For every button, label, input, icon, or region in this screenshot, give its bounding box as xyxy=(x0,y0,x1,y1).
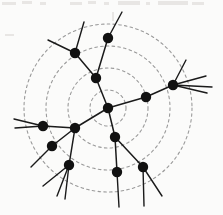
pendant-edge-n11-13 xyxy=(117,172,119,207)
pendant-edges-group xyxy=(14,12,212,207)
tree-node-bottom-right xyxy=(138,162,148,172)
tree-node-upper-branch xyxy=(91,73,101,83)
tree-edge-n10-n11 xyxy=(115,137,117,172)
pendant-edge-n12-15 xyxy=(143,167,162,196)
tree-nodes-group xyxy=(38,33,178,177)
tree-edge-n1-n3 xyxy=(96,38,108,78)
tree-node-upper-left xyxy=(70,48,80,58)
tree-node-top xyxy=(103,33,113,43)
tree-node-right-outer xyxy=(168,80,178,90)
tree-edge-n0-n4 xyxy=(108,97,146,108)
tree-edge-n0-n6 xyxy=(75,108,108,128)
tree-node-bottom-mid xyxy=(112,167,122,177)
figure-container xyxy=(0,0,223,215)
tree-node-root xyxy=(103,103,113,113)
tree-node-right-inner xyxy=(141,92,151,102)
tree-node-lower-mid xyxy=(110,132,120,142)
tree-node-left-branch xyxy=(70,123,80,133)
radial-tree-diagram xyxy=(0,0,223,215)
tree-node-far-left xyxy=(38,121,48,131)
tree-node-lower-left xyxy=(64,160,74,170)
pendant-edge-n12-14 xyxy=(143,167,144,206)
tree-node-left-lower xyxy=(47,141,57,151)
